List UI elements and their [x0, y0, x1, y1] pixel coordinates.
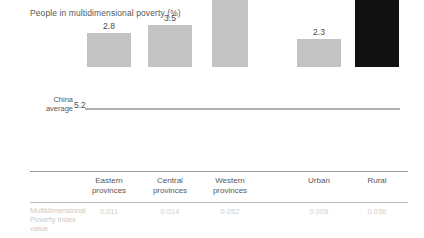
bar-value-urban: 2.3: [297, 27, 341, 39]
bar-central[interactable]: [148, 25, 192, 67]
category-label-western-line1: Western: [200, 176, 260, 186]
category-label-western: Western provinces: [200, 176, 260, 196]
china-average-label: China average: [31, 96, 73, 113]
china-average-label-line2: average: [31, 105, 73, 114]
axis-baseline: [30, 171, 408, 172]
bar-column-rural: 8.1: [355, 0, 399, 67]
bar-eastern[interactable]: [87, 33, 131, 67]
mpi-value-western: 0.052: [200, 207, 260, 216]
category-label-eastern: Eastern provinces: [79, 176, 139, 196]
mpi-value-central: 0.014: [140, 207, 200, 216]
bar-column-western: 11.4: [212, 0, 248, 67]
category-label-western-line2: provinces: [200, 186, 260, 196]
chart-container: People in multidimensional poverty (%) 2…: [0, 0, 424, 238]
china-average-line: [85, 108, 400, 110]
mpi-row-label-line2: Poverty Index value: [30, 215, 88, 233]
category-label-urban-line1: Urban: [289, 176, 349, 186]
category-label-central-line1: Central: [140, 176, 200, 186]
bar-value-central: 3.5: [148, 13, 192, 25]
category-label-central-line2: provinces: [140, 186, 200, 196]
footer-separator: [30, 202, 408, 203]
category-label-eastern-line2: provinces: [79, 186, 139, 196]
category-label-rural: Rural: [347, 176, 407, 186]
bar-column-central: 3.5: [148, 25, 192, 67]
bar-value-eastern: 2.8: [87, 21, 131, 33]
mpi-value-urban: 0.009: [289, 207, 349, 216]
china-average-value: 5.2: [74, 100, 86, 110]
bar-column-eastern: 2.8: [87, 33, 131, 67]
category-label-rural-line1: Rural: [347, 176, 407, 186]
bar-urban[interactable]: [297, 39, 341, 67]
mpi-value-rural: 0.036: [347, 207, 407, 216]
category-label-central: Central provinces: [140, 176, 200, 196]
category-label-eastern-line1: Eastern: [79, 176, 139, 186]
bar-western[interactable]: [212, 0, 248, 67]
category-label-urban: Urban: [289, 176, 349, 186]
mpi-value-eastern: 0.011: [79, 207, 139, 216]
bar-rural[interactable]: [355, 0, 399, 67]
bar-column-urban: 2.3: [297, 39, 341, 67]
